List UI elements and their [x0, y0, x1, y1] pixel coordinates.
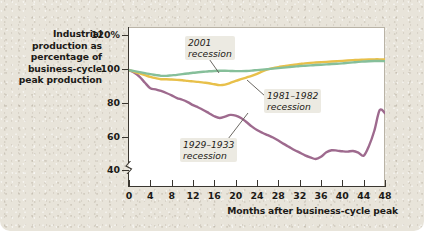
- x-axis-title: Months after business-cycle peak: [178, 205, 398, 216]
- y-tick-label-100: 100: [64, 63, 120, 74]
- y-axis-break-icon: [124, 161, 134, 174]
- annotation-2001-recession: 2001 recession: [185, 36, 235, 60]
- annotation-2001-line-2: recession: [188, 48, 232, 59]
- y-tick-label-120%: 120%: [64, 29, 120, 40]
- y-tick-label-40: 40: [64, 164, 120, 175]
- y-tick-40: [122, 170, 129, 171]
- figure-panel: Industrial production as percentage of b…: [0, 0, 424, 231]
- x-tick-48: [385, 180, 386, 187]
- x-tick-24: [257, 180, 258, 187]
- x-tick-32: [300, 180, 301, 187]
- x-tick-label-20: 20: [226, 190, 246, 201]
- y-tick-120%: [122, 35, 129, 36]
- x-tick-20: [236, 180, 237, 187]
- x-tick-28: [278, 180, 279, 187]
- y-tick-80: [122, 103, 129, 104]
- x-tick-label-32: 32: [290, 190, 310, 201]
- chart-lines: [129, 28, 385, 188]
- x-tick-label-44: 44: [354, 190, 374, 201]
- line-1929-1933-recession: [129, 70, 385, 159]
- annotation-2001-line-1: 2001: [188, 37, 232, 48]
- x-tick-36: [321, 180, 322, 187]
- annotation-1929-line-2: recession: [183, 150, 234, 161]
- x-tick-44: [364, 180, 365, 187]
- plot-area: [129, 27, 385, 187]
- annotation-1981-1982-recession: 1981–1982 recession: [264, 89, 321, 113]
- y-tick-60: [122, 137, 129, 138]
- x-tick-label-24: 24: [247, 190, 267, 201]
- x-tick-0: [129, 180, 130, 187]
- x-tick-16: [214, 180, 215, 187]
- y-axis-line: [128, 27, 129, 163]
- y-tick-labels: 406080100120%: [62, 0, 120, 200]
- x-tick-40: [342, 180, 343, 187]
- x-tick-label-16: 16: [204, 190, 224, 201]
- y-tick-100: [122, 69, 129, 70]
- x-tick-12: [193, 180, 194, 187]
- x-tick-label-0: 0: [119, 190, 139, 201]
- x-tick-label-12: 12: [183, 190, 203, 201]
- x-tick-label-40: 40: [332, 190, 352, 201]
- x-tick-8: [172, 180, 173, 187]
- x-tick-4: [150, 180, 151, 187]
- annotation-1929-1933-recession: 1929–1933 recession: [180, 138, 237, 162]
- y-tick-label-80: 80: [64, 97, 120, 108]
- annotation-1929-line-1: 1929–1933: [183, 139, 234, 150]
- x-tick-label-8: 8: [162, 190, 182, 201]
- x-tick-label-36: 36: [311, 190, 331, 201]
- x-tick-label-48: 48: [375, 190, 395, 201]
- y-tick-label-60: 60: [64, 131, 120, 142]
- x-tick-label-28: 28: [268, 190, 288, 201]
- x-tick-label-4: 4: [140, 190, 160, 201]
- annotation-1981-line-2: recession: [267, 101, 318, 112]
- annotation-1981-line-1: 1981–1982: [267, 90, 318, 101]
